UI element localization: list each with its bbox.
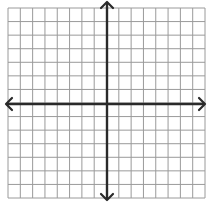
- axes: [6, 2, 205, 200]
- coordinate-plane: [0, 0, 207, 202]
